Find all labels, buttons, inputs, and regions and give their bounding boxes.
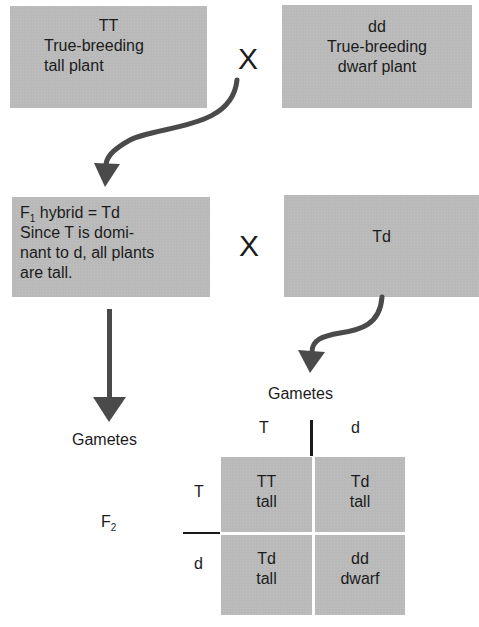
f2-prefix: F: [101, 513, 111, 530]
column-header-d: d: [351, 418, 360, 437]
cell-phenotype: tall: [315, 492, 405, 511]
curved-arrow-right-icon: [298, 297, 382, 373]
punnett-cell-Td-bottom: Td tall: [221, 535, 312, 615]
flow-arrows: [0, 0, 479, 627]
punnett-cell-dd: dd dwarf: [315, 535, 405, 615]
f2-label: F2: [101, 512, 116, 537]
straight-down-arrow-icon: [93, 309, 126, 422]
column-header-T: T: [259, 418, 269, 437]
column-divider: [310, 420, 313, 456]
cell-genotype: TT: [221, 472, 312, 491]
gametes-label-right: Gametes: [268, 384, 333, 403]
gametes-label-left: Gametes: [72, 430, 137, 449]
row-header-T: T: [194, 482, 204, 501]
punnett-cell-Td-top: Td tall: [315, 457, 405, 532]
punnett-cell-TT: TT tall: [221, 457, 312, 532]
row-divider: [183, 532, 220, 534]
f2-subscript: 2: [111, 522, 117, 533]
cell-phenotype: tall: [221, 569, 312, 588]
cell-phenotype: tall: [221, 492, 312, 511]
cell-phenotype: dwarf: [315, 569, 405, 588]
curved-arrow-icon: [94, 80, 237, 187]
row-header-d: d: [194, 554, 203, 573]
cell-genotype: dd: [315, 549, 405, 568]
cell-genotype: Td: [315, 472, 405, 491]
cell-genotype: Td: [221, 549, 312, 568]
